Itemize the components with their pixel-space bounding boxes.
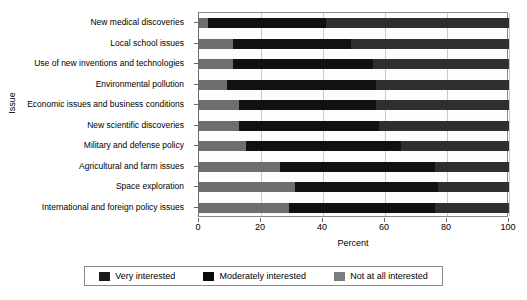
bar-row xyxy=(199,157,507,178)
bar-segment[interactable] xyxy=(435,203,509,213)
y-axis-label: Space exploration xyxy=(0,181,184,191)
bar-row xyxy=(199,95,507,116)
bar-segment[interactable] xyxy=(199,141,246,151)
bar-segment[interactable] xyxy=(208,18,326,28)
bar-segment[interactable] xyxy=(239,121,379,131)
bar-row xyxy=(199,54,507,75)
legend-label: Very interested xyxy=(115,271,175,281)
legend-label: Not at all interested xyxy=(350,271,428,281)
bar-row xyxy=(199,13,507,34)
stacked-bar[interactable] xyxy=(199,59,507,69)
legend-item[interactable]: Moderately interested xyxy=(203,271,306,281)
bar-segment[interactable] xyxy=(233,39,351,49)
bar-segment[interactable] xyxy=(280,162,435,172)
y-axis-label: Economic issues and business conditions xyxy=(0,99,184,109)
bar-segment[interactable] xyxy=(199,182,295,192)
y-axis-label: Environmental pollution xyxy=(0,79,184,89)
legend-item[interactable]: Very interested xyxy=(99,271,175,281)
bar-row xyxy=(199,198,507,219)
legend-swatch-icon xyxy=(334,272,345,281)
y-axis-label: Military and defense policy xyxy=(0,140,184,150)
stacked-bar[interactable] xyxy=(199,121,507,131)
x-axis-tick-label: 60 xyxy=(379,222,389,232)
bar-row xyxy=(199,34,507,55)
bar-segment[interactable] xyxy=(233,59,373,69)
y-axis-label: Agricultural and farm issues xyxy=(0,161,184,171)
bar-segment[interactable] xyxy=(199,18,208,28)
stacked-bar[interactable] xyxy=(199,18,507,28)
legend-label: Moderately interested xyxy=(219,271,306,281)
x-axis-tick-label: 40 xyxy=(317,222,327,232)
bar-segment[interactable] xyxy=(379,121,509,131)
legend-item[interactable]: Not at all interested xyxy=(334,271,428,281)
gridline xyxy=(509,13,510,216)
bar-segment[interactable] xyxy=(438,182,509,192)
x-axis-tick-label: 80 xyxy=(441,222,451,232)
bar-segment[interactable] xyxy=(199,39,233,49)
x-axis-title: Percent xyxy=(198,238,508,248)
bar-segment[interactable] xyxy=(199,100,239,110)
bar-segment[interactable] xyxy=(199,121,239,131)
bar-segment[interactable] xyxy=(401,141,510,151)
bar-segment[interactable] xyxy=(289,203,435,213)
x-axis-ticks: 020406080100 xyxy=(198,218,508,226)
bar-segment[interactable] xyxy=(376,100,509,110)
y-axis-label: Use of new inventions and technologies xyxy=(0,58,184,68)
bar-segment[interactable] xyxy=(199,80,227,90)
legend-swatch-icon xyxy=(99,272,110,281)
legend-swatch-icon xyxy=(203,272,214,281)
bar-segment[interactable] xyxy=(199,59,233,69)
bar-segment[interactable] xyxy=(373,59,509,69)
stacked-bar[interactable] xyxy=(199,141,507,151)
y-axis-label: International and foreign policy issues xyxy=(0,202,184,212)
y-axis-label: Local school issues xyxy=(0,38,184,48)
bar-row xyxy=(199,116,507,137)
bar-segment[interactable] xyxy=(376,80,509,90)
x-axis-tick-label: 100 xyxy=(500,222,515,232)
stacked-bar[interactable] xyxy=(199,203,507,213)
x-axis-tick-label: 20 xyxy=(255,222,265,232)
bar-segment[interactable] xyxy=(351,39,509,49)
bar-segment[interactable] xyxy=(326,18,509,28)
bar-row xyxy=(199,177,507,198)
stacked-bar-chart: Issue New medical discoveriesLocal schoo… xyxy=(0,0,527,300)
bar-segment[interactable] xyxy=(295,182,438,192)
stacked-bar[interactable] xyxy=(199,182,507,192)
y-axis-label: New scientific discoveries xyxy=(0,120,184,130)
plot-area xyxy=(198,12,508,217)
bar-segment[interactable] xyxy=(246,141,401,151)
y-axis-labels: New medical discoveriesLocal school issu… xyxy=(0,12,192,217)
bar-segment[interactable] xyxy=(239,100,375,110)
stacked-bar[interactable] xyxy=(199,80,507,90)
stacked-bar[interactable] xyxy=(199,100,507,110)
bar-row xyxy=(199,75,507,96)
stacked-bar[interactable] xyxy=(199,162,507,172)
y-axis-label: New medical discoveries xyxy=(0,17,184,27)
chart-legend: Very interestedModerately interestedNot … xyxy=(84,266,443,286)
bar-segment[interactable] xyxy=(227,80,376,90)
stacked-bar[interactable] xyxy=(199,39,507,49)
x-axis-tick-label: 0 xyxy=(195,222,200,232)
bar-row xyxy=(199,136,507,157)
bar-segment[interactable] xyxy=(199,203,289,213)
bar-segment[interactable] xyxy=(435,162,509,172)
bar-segment[interactable] xyxy=(199,162,280,172)
